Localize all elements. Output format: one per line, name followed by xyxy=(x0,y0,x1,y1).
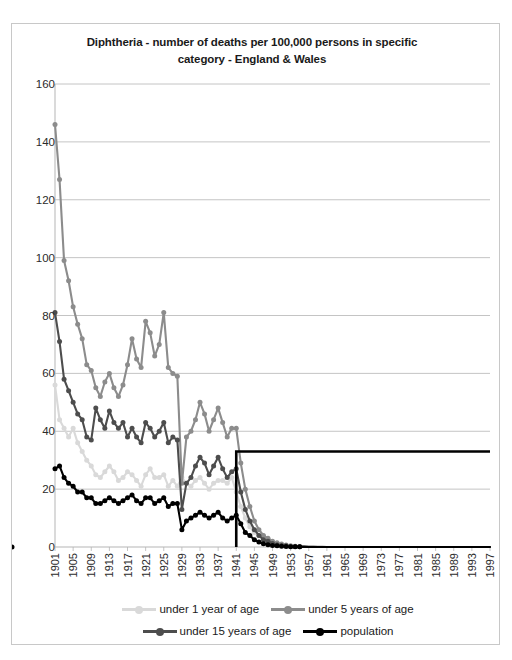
series-marker-0 xyxy=(175,484,180,489)
series-marker-1 xyxy=(220,420,225,425)
series-marker-1 xyxy=(198,400,203,405)
legend-item-under-15-years[interactable]: under 15 years of age xyxy=(143,625,292,637)
series-marker-1 xyxy=(243,487,248,492)
series-marker-2 xyxy=(252,527,257,532)
series-marker-2 xyxy=(107,408,112,413)
series-marker-3 xyxy=(157,498,162,503)
series-marker-2 xyxy=(66,388,71,393)
series-marker-1 xyxy=(184,435,189,440)
series-marker-3 xyxy=(71,484,76,489)
legend-label-under-5-years: under 5 years of age xyxy=(308,603,414,615)
series-marker-0 xyxy=(152,475,157,480)
series-marker-3 xyxy=(193,513,198,518)
series-marker-2 xyxy=(93,406,98,411)
series-marker-3 xyxy=(57,463,62,468)
series-marker-3 xyxy=(134,498,139,503)
series-marker-3 xyxy=(275,543,280,548)
series-marker-2 xyxy=(111,420,116,425)
series-marker-0 xyxy=(157,475,162,480)
series-marker-0 xyxy=(71,426,76,431)
series-marker-2 xyxy=(247,518,252,523)
series-marker-3 xyxy=(256,540,261,545)
series-marker-1 xyxy=(157,342,162,347)
series-marker-3 xyxy=(93,501,98,506)
series-marker-2 xyxy=(84,435,89,440)
series-marker-1 xyxy=(98,394,103,399)
series-marker-2 xyxy=(120,420,125,425)
series-marker-1 xyxy=(256,527,261,532)
legend-label-under-15-years: under 15 years of age xyxy=(180,625,292,637)
series-marker-0 xyxy=(84,458,89,463)
series-marker-3 xyxy=(143,495,148,500)
legend-marker-icon xyxy=(316,628,324,636)
series-marker-1 xyxy=(170,371,175,376)
legend-swatch-population xyxy=(303,625,337,637)
series-marker-1 xyxy=(161,310,166,315)
series-marker-0 xyxy=(238,504,243,509)
series-marker-0 xyxy=(62,426,67,431)
series-marker-2 xyxy=(102,426,107,431)
series-marker-0 xyxy=(198,475,203,480)
series-line-0 xyxy=(55,385,490,547)
series-marker-1 xyxy=(238,461,243,466)
series-marker-1 xyxy=(211,417,216,422)
series-marker-2 xyxy=(166,440,171,445)
series-marker-3 xyxy=(179,527,184,532)
series-marker-3 xyxy=(265,542,270,547)
series-marker-3 xyxy=(252,537,257,542)
series-marker-2 xyxy=(193,463,198,468)
series-marker-0 xyxy=(98,475,103,480)
series-marker-3 xyxy=(293,544,298,549)
series-marker-1 xyxy=(193,417,198,422)
y-tick-label: 20 xyxy=(19,483,55,495)
series-marker-1 xyxy=(120,382,125,387)
series-marker-2 xyxy=(184,481,189,486)
series-marker-3 xyxy=(62,475,67,480)
series-marker-3 xyxy=(288,544,293,549)
series-marker-3 xyxy=(98,501,103,506)
series-marker-1 xyxy=(143,319,148,324)
series-marker-2 xyxy=(238,490,243,495)
series-marker-3 xyxy=(184,518,189,523)
series-marker-3 xyxy=(220,516,225,521)
series-marker-0 xyxy=(102,469,107,474)
series-marker-3 xyxy=(120,498,125,503)
series-marker-1 xyxy=(252,518,257,523)
series-marker-1 xyxy=(102,380,107,385)
series-marker-0 xyxy=(93,472,98,477)
legend-item-population[interactable]: population xyxy=(303,625,393,637)
series-marker-2 xyxy=(220,466,225,471)
legend-item-under-1-year[interactable]: under 1 year of age xyxy=(122,603,259,615)
series-marker-2 xyxy=(139,440,144,445)
series-marker-3 xyxy=(80,490,85,495)
series-marker-1 xyxy=(225,435,230,440)
series-marker-3 xyxy=(225,518,230,523)
series-marker-2 xyxy=(216,455,221,460)
series-line-1 xyxy=(55,125,490,547)
series-marker-1 xyxy=(107,371,112,376)
series-marker-2 xyxy=(225,475,230,480)
series-marker-1 xyxy=(175,374,180,379)
series-marker-0 xyxy=(220,478,225,483)
series-marker-1 xyxy=(188,429,193,434)
y-tick-label: 100 xyxy=(19,252,55,264)
series-marker-0 xyxy=(229,475,234,480)
y-tick-label: 60 xyxy=(19,367,55,379)
series-marker-2 xyxy=(243,507,248,512)
series-marker-0 xyxy=(170,478,175,483)
y-tick-label: 160 xyxy=(19,78,55,90)
series-marker-1 xyxy=(234,426,239,431)
series-marker-0 xyxy=(207,487,212,492)
series-marker-3 xyxy=(111,498,116,503)
series-marker-1 xyxy=(62,258,67,263)
series-marker-2 xyxy=(62,377,67,382)
series-marker-3 xyxy=(89,495,94,500)
legend-item-under-5-years[interactable]: under 5 years of age xyxy=(271,603,414,615)
series-marker-0 xyxy=(111,469,116,474)
legend-label-population: population xyxy=(340,625,393,637)
series-marker-1 xyxy=(207,429,212,434)
series-marker-2 xyxy=(157,429,162,434)
chart-legend: under 1 year of age under 5 years of age… xyxy=(68,598,468,642)
series-marker-2 xyxy=(170,435,175,440)
series-marker-0 xyxy=(116,478,121,483)
